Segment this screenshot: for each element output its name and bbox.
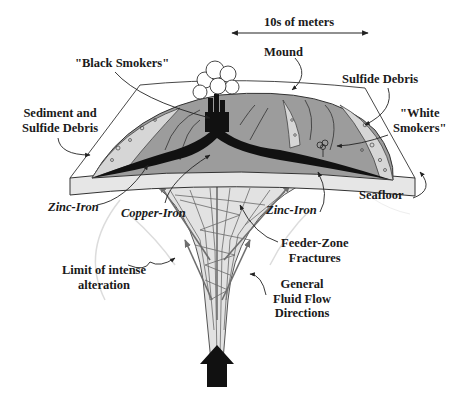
sulfide-mound xyxy=(92,93,393,180)
scale-label: 10s of meters xyxy=(264,15,334,30)
feeder-zone-label: Feeder-Zone Fractures xyxy=(281,236,349,265)
sediment-debris-label: Sediment and Sulfide Debris xyxy=(22,106,98,135)
zinc-iron-left-label: Zinc-Iron xyxy=(48,200,99,215)
alteration-limit-label: Limit of intense alteration xyxy=(62,263,146,292)
sulfide-debris-label: Sulfide Debris xyxy=(342,72,418,87)
copper-iron-label: Copper-Iron xyxy=(121,206,186,221)
seafloor-label: Seafloor xyxy=(359,188,403,203)
zinc-iron-right-label: Zinc-Iron xyxy=(266,203,317,218)
fluid-flow-label: General Fluid Flow Directions xyxy=(273,277,331,321)
mound-label: Mound xyxy=(264,45,303,60)
smoke-plume xyxy=(193,61,239,99)
upwelling-arrow xyxy=(200,345,234,387)
black-smokers-label: "Black Smokers" xyxy=(75,56,169,71)
white-smokers-label: "White Smokers" xyxy=(393,106,446,135)
